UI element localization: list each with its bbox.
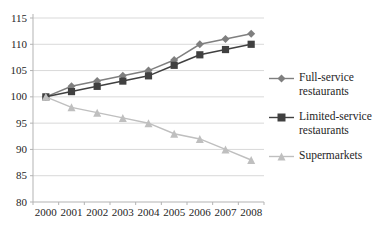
- svg-text:95: 95: [16, 117, 28, 129]
- svg-text:105: 105: [11, 64, 28, 76]
- axes: [33, 14, 264, 202]
- legend-label: Limited-service restaurants: [299, 110, 375, 137]
- svg-text:110: 110: [11, 38, 28, 50]
- svg-text:115: 115: [11, 12, 28, 24]
- svg-text:90: 90: [16, 143, 28, 155]
- svg-text:80: 80: [16, 196, 28, 208]
- svg-text:2002: 2002: [86, 206, 108, 218]
- svg-text:2000: 2000: [35, 206, 58, 218]
- price-index-line-chart: 8085909510010511011520002001200220032004…: [0, 0, 377, 234]
- legend-item-limited-service-restaurants: Limited-service restaurants: [269, 110, 375, 137]
- x-axis-ticks: 200020012002200320042005200620072008: [33, 202, 264, 218]
- svg-text:2005: 2005: [163, 206, 186, 218]
- gridlines: [33, 18, 264, 176]
- svg-text:100: 100: [11, 90, 28, 102]
- legend-label: Full-service restaurants: [299, 71, 375, 98]
- square-marker-icon: [269, 112, 294, 123]
- legend-item-full-service-restaurants: Full-service restaurants: [269, 71, 375, 98]
- svg-text:2003: 2003: [112, 206, 135, 218]
- y-axis-ticks: 80859095100105110115: [11, 12, 34, 208]
- svg-text:2007: 2007: [215, 206, 238, 218]
- svg-text:2006: 2006: [189, 206, 212, 218]
- series-triangle: [42, 93, 255, 164]
- svg-text:2001: 2001: [61, 206, 83, 218]
- diamond-marker-icon: [269, 73, 294, 84]
- legend: Full-service restaurants Limited-service…: [269, 71, 375, 163]
- svg-text:2004: 2004: [138, 206, 161, 218]
- legend-label: Supermarkets: [299, 149, 375, 163]
- triangle-marker-icon: [269, 151, 294, 162]
- svg-text:2008: 2008: [240, 206, 263, 218]
- legend-item-supermarkets: Supermarkets: [269, 149, 375, 163]
- svg-text:85: 85: [16, 169, 28, 181]
